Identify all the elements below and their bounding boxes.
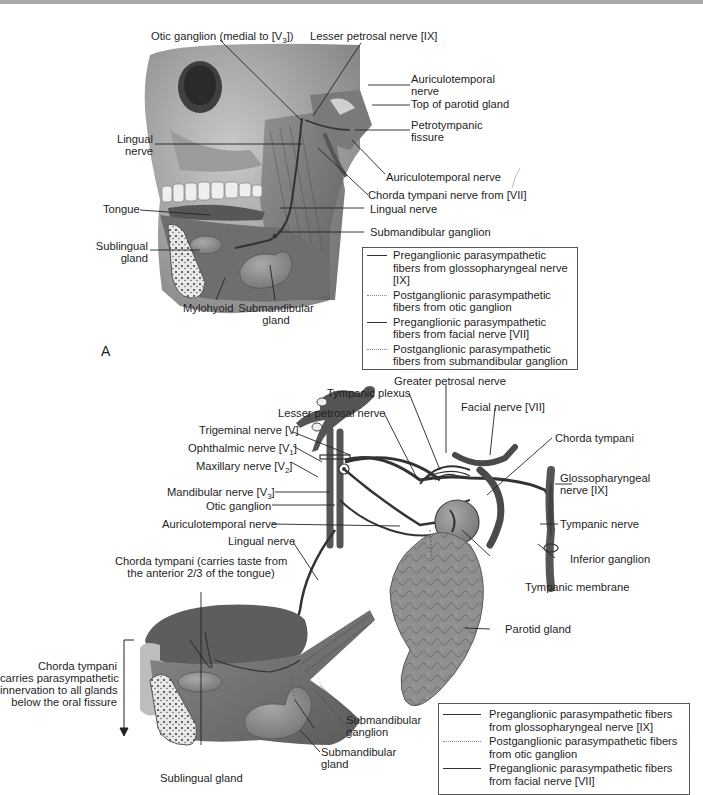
label-chorda-taste: Chorda tympani (carries taste from the a… bbox=[115, 555, 287, 579]
label-lingual-right: Lingual nerve bbox=[370, 203, 437, 215]
label-submandibular-gland-a: Submandibular gland bbox=[238, 302, 314, 326]
label-parotid: Parotid gland bbox=[505, 623, 571, 635]
label-otic-ganglion-a: Otic ganglion (medial to [V3]) bbox=[151, 30, 294, 47]
label-lingual-left: Lingual nerve bbox=[108, 133, 153, 157]
label-otic-ganglion-b: Otic ganglion bbox=[206, 500, 271, 512]
label-petrotympanic: Petrotympanic fissure bbox=[411, 119, 483, 143]
legend-row: Preganglionic parasympathetic fibersfrom… bbox=[439, 761, 689, 788]
label-maxillary: Maxillary nerve [V2] bbox=[196, 460, 292, 477]
label-mylohyoid: Mylohyoid bbox=[183, 302, 233, 314]
label-ophthalmic: Ophthalmic nerve [V1] bbox=[188, 442, 297, 459]
panel-label-a: A bbox=[101, 343, 110, 359]
label-auriculotemporal-low: Auriculotemporal nerve bbox=[386, 171, 501, 183]
solid-line-swatch bbox=[367, 322, 387, 323]
label-tongue: Tongue bbox=[103, 203, 140, 215]
label-chorda-note: Chorda tympani carries parasympathetic i… bbox=[0, 660, 117, 708]
solid-line-swatch bbox=[443, 768, 481, 769]
legend-row: Postganglionic parasympatheticfibers fro… bbox=[363, 342, 577, 369]
legend-row: Postganglionic parasympathetic fibersfro… bbox=[439, 734, 689, 761]
label-submandibular-ganglion-a: Submandibular ganglion bbox=[370, 226, 491, 238]
label-greater-petrosal: Greater petrosal nerve bbox=[394, 375, 506, 387]
label-sublingual-b: Sublingual gland bbox=[160, 772, 243, 784]
dotted-line-swatch bbox=[367, 349, 387, 350]
legend-row: Preganglionic parasympatheticfibers from… bbox=[363, 315, 577, 342]
legend-row: Preganglionic parasympatheticfibers from… bbox=[363, 248, 577, 288]
label-chorda-tympani-b: Chorda tympani bbox=[555, 432, 634, 444]
label-tympanic-membrane: Tympanic membrane bbox=[525, 581, 629, 593]
label-lesser-petrosal-b: Lesser petrosal nerve bbox=[278, 407, 386, 419]
label-tympanic-nerve: Tympanic nerve bbox=[560, 518, 639, 530]
label-lingual-b: Lingual nerve bbox=[228, 535, 295, 547]
label-tympanic-plexus: Tympanic plexus bbox=[327, 387, 410, 399]
downward-arrow-icon bbox=[120, 640, 134, 736]
label-auriculotemporal-b: Auriculotemporal nerve bbox=[162, 518, 277, 530]
label-chorda-tympani-a: Chorda tympani nerve from [VII] bbox=[368, 189, 527, 201]
label-sublingual-a: Sublingual gland bbox=[80, 240, 148, 264]
label-glossopharyngeal: Glossopharyngeal nerve [IX] bbox=[560, 472, 650, 496]
legend-panel-b: Preganglionic parasympathetic fibersfrom… bbox=[438, 703, 690, 795]
label-submandibular-gland-b: Submandibular gland bbox=[321, 746, 396, 770]
legend-panel-a: Preganglionic parasympatheticfibers from… bbox=[362, 247, 578, 370]
legend-row: Postganglionic parasympatheticfibers fro… bbox=[363, 288, 577, 315]
solid-line-swatch bbox=[367, 255, 387, 256]
label-top-parotid: Top of parotid gland bbox=[411, 98, 509, 110]
label-trigeminal: Trigeminal nerve [V] bbox=[199, 424, 299, 436]
solid-line-swatch bbox=[443, 714, 481, 715]
label-facial-nerve: Facial nerve [VII] bbox=[461, 401, 545, 413]
dotted-line-swatch bbox=[443, 741, 481, 742]
label-auriculotemporal-top: Auriculotemporal nerve bbox=[411, 73, 495, 97]
skull-illustration bbox=[145, 44, 372, 313]
label-inferior-ganglion: Inferior ganglion bbox=[570, 553, 650, 565]
label-lesser-petrosal-a: Lesser petrosal nerve [IX] bbox=[310, 30, 437, 42]
dotted-line-swatch bbox=[367, 295, 387, 296]
parotid-gland-illustration bbox=[390, 533, 483, 706]
tongue-illustration bbox=[140, 605, 375, 745]
legend-row: Preganglionic parasympathetic fibersfrom… bbox=[439, 704, 689, 734]
label-submandibular-ganglion-b: Submandibular ganglion bbox=[346, 714, 421, 738]
